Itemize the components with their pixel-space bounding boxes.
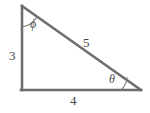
angle-label-phi: ϕ [30,18,36,30]
triangle-figure: 3 4 5 ϕ θ [0,0,150,113]
side-label-hypotenuse: 5 [83,36,90,49]
side-label-vertical-leg: 3 [9,49,16,62]
triangle-side-hypotenuse [22,6,141,90]
side-label-horizontal-leg: 4 [70,94,77,107]
angle-label-theta: θ [109,73,115,85]
